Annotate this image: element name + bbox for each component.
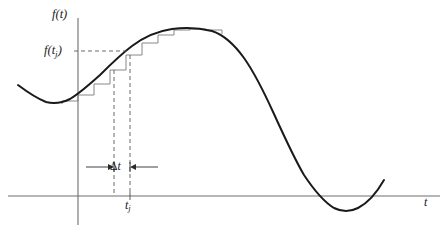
f-of-tj-main: f(t	[44, 43, 55, 57]
f-of-tj-label: f(tj)	[44, 44, 62, 59]
function-sampling-diagram	[0, 0, 448, 233]
delta-t-right-arrowhead-icon	[130, 164, 136, 170]
delta-t-variable: t	[117, 160, 120, 172]
f-of-tj-close: )	[58, 43, 62, 57]
delta-t-label: Δt	[110, 161, 121, 173]
x-axis-label: t	[424, 196, 427, 208]
figure-container: f(t) f(tj) tj Δt t	[0, 0, 448, 233]
tj-subscript: j	[128, 203, 130, 213]
y-axis-label: f(t)	[52, 8, 67, 21]
tj-label: tj	[125, 199, 131, 213]
function-curve	[18, 28, 384, 211]
